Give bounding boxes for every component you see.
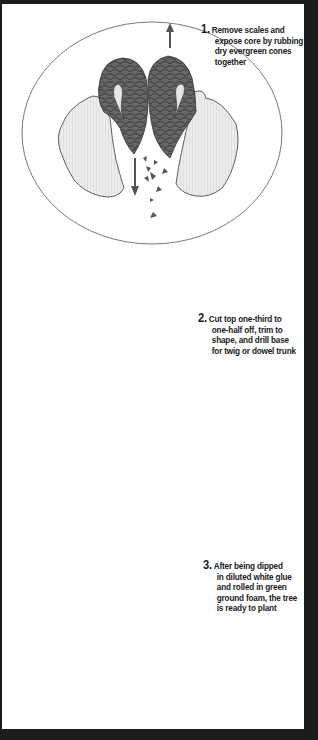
caption-line: Remove scales and — [212, 24, 285, 35]
falling-scales-icon — [143, 156, 168, 218]
caption-line: Cut top one-third to — [209, 313, 282, 324]
step-1-caption: 1.Remove scales and expose core by rubbi… — [201, 24, 303, 67]
caption-line: for twig or dowel trunk — [198, 346, 296, 357]
caption-line: together — [201, 57, 303, 68]
up-arrow-icon — [166, 23, 174, 48]
caption-line: is ready to plant — [203, 603, 297, 614]
caption-line: and rolled in green — [203, 582, 297, 593]
step-3-number: 3. — [203, 557, 212, 572]
caption-line: After being dipped — [214, 560, 283, 571]
down-arrow-icon — [131, 158, 139, 196]
step-2-number: 2. — [198, 310, 207, 325]
step-3-caption: 3.After being dipped in diluted white gl… — [203, 560, 297, 614]
caption-line: shape, and drill base — [198, 335, 296, 346]
step-2-caption: 2.Cut top one-third to one-half off, tri… — [198, 313, 296, 356]
caption-line: dry evergreen cones — [201, 46, 303, 57]
illustration-canvas — [0, 0, 318, 740]
step-1-number: 1. — [201, 21, 210, 36]
